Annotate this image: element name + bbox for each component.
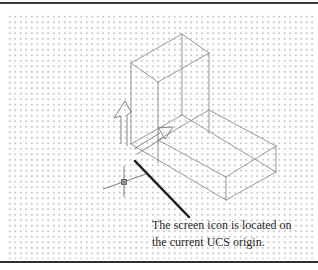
caption-line-2: the current UCS origin.	[152, 234, 292, 251]
bottom-rule	[0, 261, 318, 263]
caption-line-1: The screen icon is located on	[152, 217, 292, 234]
leader-arrow	[135, 161, 189, 217]
ucs-icon	[114, 101, 173, 154]
figure-caption: The screen icon is located on the curren…	[152, 217, 292, 251]
l-solid-wireframe	[131, 34, 276, 200]
crosshair-icon	[103, 166, 146, 197]
manual-figure: The screen icon is located on the curren…	[0, 0, 318, 270]
